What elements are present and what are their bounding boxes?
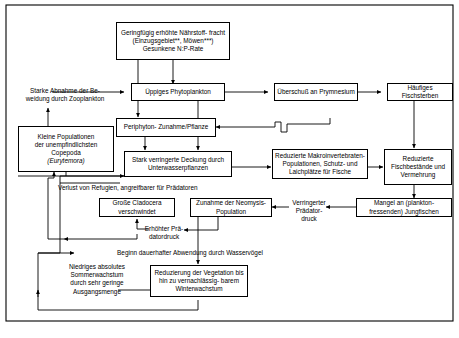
edge-left-bus-lower	[38, 183, 60, 253]
label-reduced-predation-text: Verringerter Prädator- druck	[292, 199, 325, 222]
label-refugia-loss-text: Verlust von Refugien, angreifbarer für P…	[58, 184, 198, 191]
node-fish-mortality-label: Häufiges Fischsterben	[390, 84, 450, 100]
label-grazing-decline-text: Starke Abnahme der Be- weidung durch Zoo…	[26, 87, 105, 102]
node-vegetation-reduction: Reduzierung der Vegetation bis hin zu ve…	[150, 265, 248, 297]
label-low-summer-growth-text: Niedriges absolutes Sommerwachstum durch…	[69, 263, 125, 295]
node-submerged-vegetation-cover-label: Stark verringerte Deckung durch Unterwas…	[127, 156, 229, 172]
node-prymnesium: Überschuß an Prymnesium	[274, 83, 358, 101]
node-copepoda-line-1: Kleine Populationen	[21, 133, 111, 141]
node-fish-stocks: Reduzierte Fischbestände und Vermehrung	[384, 149, 452, 185]
node-periphyton-label: Periphyton- Zunahme/Pflanze	[119, 123, 213, 131]
node-fish-stocks-label: Reduzierte Fischbestände und Vermehrung	[387, 155, 449, 180]
node-nutrient-load: Geringfügig erhöhte Nährstoff- fracht (E…	[116, 22, 230, 60]
node-copepoda-line-2: der unempfindlichsten	[21, 141, 111, 149]
node-prymnesium-label: Überschuß an Prymnesium	[277, 88, 355, 96]
node-submerged-vegetation-cover: Stark verringerte Deckung durch Unterwas…	[124, 151, 232, 177]
node-copepoda-populations: Kleine Populationen der unempfindlichste…	[18, 126, 114, 172]
label-refugia-loss: Verlust von Refugien, angreifbarer für P…	[58, 184, 258, 192]
label-waterbird-avoidance-text: Beginn dauerhafter Abwendung durch Wasse…	[117, 249, 263, 256]
label-increased-predation-text: Erhöhter Prä- datordruck	[145, 225, 183, 240]
node-juvenile-fish: Mangel an (plankton- fressenden) Jungfis…	[356, 198, 452, 217]
edge-bottom-return	[38, 297, 198, 310]
node-neomysis-label: Zunahme der Neomysis-Population	[193, 199, 269, 215]
node-vegetation-reduction-label: Reduzierung der Vegetation bis hin zu ve…	[153, 269, 245, 294]
label-low-summer-growth: Niedriges absolutes Sommerwachstum durch…	[48, 263, 146, 296]
label-reduced-predation: Verringerter Prädator- druck	[288, 199, 330, 224]
label-grazing-decline: Starke Abnahme der Be- weidung durch Zoo…	[12, 87, 118, 103]
node-macroinvertebrates: Reduzierte Makroinvertebraten- Populatio…	[272, 149, 368, 179]
node-neomysis: Zunahme der Neomysis-Population	[190, 198, 272, 217]
node-cladocera: Große Cladocera verschwindet	[99, 198, 175, 217]
node-cladocera-label: Große Cladocera verschwindet	[102, 199, 172, 215]
node-phytoplankton: Üppiges Phytoplankton	[131, 83, 225, 101]
node-fish-mortality: Häufiges Fischsterben	[387, 83, 453, 101]
edge-feedback-jog	[275, 122, 330, 132]
node-nutrient-load-label: Geringfügig erhöhte Nährstoff- fracht (E…	[119, 29, 227, 54]
flowchart-diagram: Geringfügig erhöhte Nährstoff- fracht (E…	[0, 0, 459, 338]
label-increased-predation: Erhöhter Prä- datordruck	[140, 225, 188, 241]
label-waterbird-avoidance: Beginn dauerhafter Abwendung durch Wasse…	[72, 249, 308, 257]
node-copepoda-line-3: Copepoda	[21, 149, 111, 157]
edge-neomysis-predation-up	[184, 216, 218, 230]
edge-coverage-left-bus	[60, 176, 124, 183]
node-juvenile-fish-label: Mangel an (plankton- fressenden) Jungfis…	[359, 199, 449, 215]
node-periphyton: Periphyton- Zunahme/Pflanze	[116, 118, 216, 137]
node-phytoplankton-label: Üppiges Phytoplankton	[134, 88, 222, 96]
node-macroinvertebrates-label: Reduzierte Makroinvertebraten- Populatio…	[275, 152, 365, 177]
node-copepoda-line-4: (Eurytemora)	[21, 157, 111, 165]
